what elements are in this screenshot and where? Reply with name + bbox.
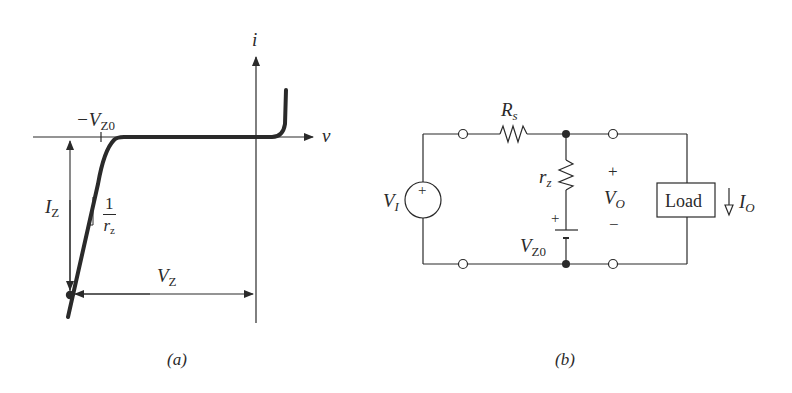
rs-label: Rs (501, 100, 518, 119)
slope-fraction: 1 rz (103, 195, 116, 234)
vz0-label-main: −V (76, 109, 100, 130)
slope-denominator: rz (103, 215, 115, 234)
caption-b: (b) (555, 350, 575, 370)
vz0-battery-label: VZ0 (520, 236, 546, 255)
input-terminal-bottom (459, 260, 468, 269)
iz-label-sub: Z (51, 205, 59, 220)
rz-resistor (559, 160, 573, 190)
rz-label: rz (539, 167, 551, 186)
vo-minus-sign: − (609, 216, 619, 233)
iz-label: IZ (45, 197, 59, 216)
operating-point (66, 291, 74, 299)
vz0-label: −VZ0 (76, 110, 115, 129)
slope-numerator: 1 (103, 195, 116, 215)
load-current-arrowhead (725, 205, 733, 215)
rs-label-main: R (501, 99, 513, 120)
output-terminal-bottom (609, 260, 618, 269)
load-label: Load (665, 191, 702, 212)
io-label-sub: O (745, 200, 754, 215)
vi-label-sub: I (395, 199, 399, 214)
vz-label: VZ (157, 266, 177, 285)
battery-plus-sign: + (551, 211, 559, 226)
vz-label-sub: Z (169, 274, 177, 289)
vo-label: VO (604, 188, 625, 207)
v-axis-label: v (322, 126, 330, 145)
output-terminal-top (609, 130, 618, 139)
rs-label-sub: s (513, 108, 518, 123)
rz-label-sub: z (546, 175, 551, 190)
vi-label-main: V (383, 190, 395, 211)
input-terminal-top (459, 130, 468, 139)
vo-plus-sign: + (608, 163, 618, 180)
vo-label-sub: O (616, 196, 625, 211)
vo-label-main: V (604, 187, 616, 208)
vz-label-main: V (157, 265, 169, 286)
source-plus-sign: + (418, 183, 426, 198)
node-top (562, 130, 570, 138)
vz0-label-sub: Z0 (100, 118, 114, 133)
slope-denominator-sub: z (110, 224, 115, 236)
vi-label: VI (383, 191, 399, 210)
vz0-battery-label-main: V (520, 235, 532, 256)
io-label: IO (739, 192, 755, 211)
rs-resistor (500, 126, 527, 142)
vz0-battery-label-sub: Z0 (532, 244, 546, 259)
caption-a: (a) (167, 350, 187, 370)
i-axis-label: i (252, 30, 257, 49)
node-bottom (562, 260, 570, 268)
